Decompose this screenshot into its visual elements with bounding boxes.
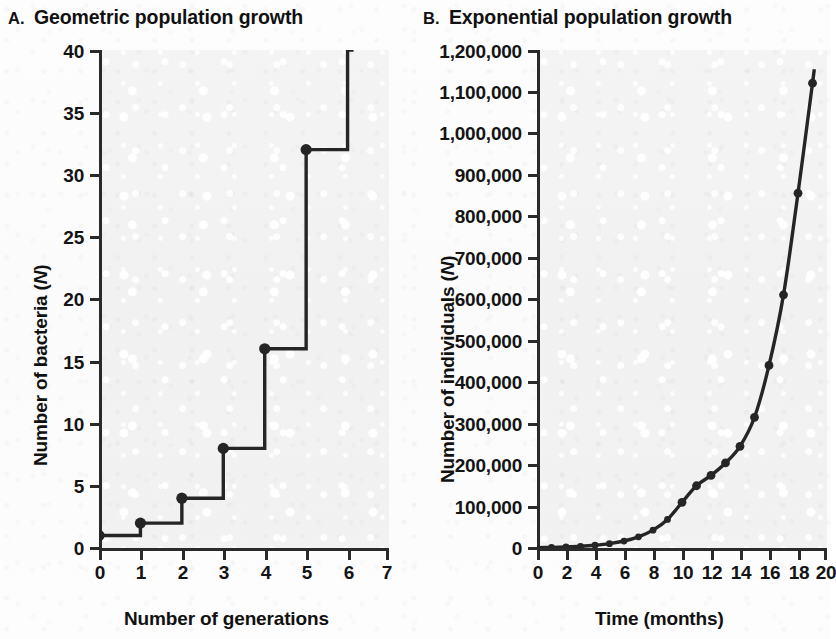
panel-a-y-tick-20 [90,298,99,301]
panel-a-y-label-30: 30 [36,165,84,187]
panel-b-y-tick-300000 [528,423,537,426]
panel-a-y-tick-40 [90,50,99,53]
panel-b-y-label-1200000: 1,200,000 [408,41,522,63]
panel-b-y-label-1100000: 1,100,000 [408,82,522,104]
panel-a-x-label-7: 7 [382,562,392,584]
panel-b-y-label-1000000: 1,000,000 [408,123,522,145]
panel-b-x-tick-16 [769,551,772,560]
panel-b-y-tick-400000 [528,381,537,384]
panel-b-y-label-800000: 800,000 [408,206,522,228]
panel-b-x-tick-20 [824,551,827,560]
panel-b-x-label-18: 18 [789,562,810,584]
panel-a-x-label-3: 3 [219,562,229,584]
panel-a-x-tick-0 [99,551,102,560]
panel-b-x-label-2: 2 [562,562,572,584]
panel-a-y-tick-30 [90,174,99,177]
panel-b-y-tick-800000 [528,215,537,218]
panel-b-x-tick-0 [537,551,540,560]
panel-b-y-tick-1000000 [528,132,537,135]
panel-b-x-tick-12 [711,551,714,560]
panel-a-x-tick-5 [306,551,309,560]
panel-b-header: B. Exponential population growth [423,6,732,29]
panel-b-y-tick-1200000 [528,50,537,53]
panel-a-y-label-25: 25 [36,227,84,249]
panel-b-y-label-200000: 200,000 [408,455,522,477]
panel-a-y-label-5: 5 [36,476,84,498]
panel-a-y-label-10: 10 [36,414,84,436]
panel-b-exponential-series [537,50,827,548]
panel-b-y-label-500000: 500,000 [408,331,522,353]
panel-a-y-tick-10 [90,423,99,426]
panel-b-y-label-0: 0 [408,538,522,560]
panel-a-x-label-5: 5 [302,562,312,584]
panel-b-x-label-8: 8 [649,562,659,584]
panel-b-y-label-300000: 300,000 [408,414,522,436]
panel-a-letter: A. [8,9,25,28]
panel-b-letter: B. [423,9,440,28]
panel-a-y-tick-0 [90,547,99,550]
panel-b-x-tick-18 [798,551,801,560]
panel-b-x-label-10: 10 [673,562,694,584]
panel-b-x-label-4: 4 [591,562,601,584]
panel-a-step-series [99,50,389,548]
panel-b-y-label-100000: 100,000 [408,497,522,519]
panel-b-x-tick-14 [740,551,743,560]
panel-b-y-tick-700000 [528,257,537,260]
panel-a-title: Geometric population growth [34,6,303,29]
panel-a-x-label-0: 0 [95,562,105,584]
panel-a-y-label-20: 20 [36,289,84,311]
panel-a-y-label-40: 40 [36,41,84,63]
panel-b-title: Exponential population growth [449,6,732,29]
panel-b-y-tick-0 [528,547,537,550]
panel-b-x-label-14: 14 [731,562,752,584]
panel-a-y-label-35: 35 [36,103,84,125]
panel-a-x-tick-7 [386,551,389,560]
panel-b-y-tick-500000 [528,340,537,343]
panel-b-plot: 0 100,000 200,000 300,000 400,000 500,00… [537,50,827,548]
panel-b-x-axis-title: Time (months) [595,608,724,630]
panel-b-x-tick-4 [595,551,598,560]
panel-a-x-axis-title: Number of generations [124,608,329,630]
panel-a-y-tick-15 [90,361,99,364]
panel-b-x-label-6: 6 [620,562,630,584]
panel-b-x-label-16: 16 [760,562,781,584]
panel-b-x-tick-2 [566,551,569,560]
panel-b-y-tick-600000 [528,298,537,301]
panel-a-header: A. Geometric population growth [8,6,303,29]
panel-a-y-tick-25 [90,236,99,239]
panel-a-y-axis-title-tail: ) [30,264,51,270]
panel-geometric-growth: A. Geometric population growth Number of… [0,0,415,639]
panel-a-x-tick-1 [140,551,143,560]
panel-a-y-label-0: 0 [36,538,84,560]
panel-b-x-tick-8 [653,551,656,560]
panel-b-y-label-600000: 600,000 [408,289,522,311]
panel-a-x-label-2: 2 [178,562,188,584]
panel-b-y-tick-1100000 [528,91,537,94]
panel-a-y-tick-35 [90,112,99,115]
panel-b-x-label-0: 0 [533,562,543,584]
panel-b-y-label-400000: 400,000 [408,372,522,394]
panel-b-y-tick-900000 [528,174,537,177]
panel-b-y-label-900000: 900,000 [408,165,522,187]
panel-b-x-label-12: 12 [702,562,723,584]
panel-a-x-tick-3 [223,551,226,560]
panel-a-plot: 0 5 10 15 20 25 30 35 40 0 1 2 3 4 5 6 7 [99,50,389,548]
panel-b-x-tick-10 [682,551,685,560]
panel-b-x-tick-6 [624,551,627,560]
panel-a-x-label-4: 4 [261,562,271,584]
panel-b-x-label-20: 20 [816,562,836,584]
panel-a-x-tick-6 [348,551,351,560]
panel-a-x-tick-4 [265,551,268,560]
panel-b-y-label-700000: 700,000 [408,248,522,270]
panel-a-y-label-15: 15 [36,352,84,374]
panel-a-x-label-1: 1 [136,562,146,584]
panel-a-x-tick-2 [182,551,185,560]
panel-b-y-tick-100000 [528,506,537,509]
panel-exponential-growth: B. Exponential population growth Number … [415,0,831,639]
panel-a-y-axis-title-symbol: N [30,271,51,285]
panel-a-y-axis-title-text: Number of bacteria ( [30,284,51,466]
panel-a-x-label-6: 6 [344,562,354,584]
panel-a-y-tick-5 [90,485,99,488]
panel-b-y-tick-200000 [528,464,537,467]
